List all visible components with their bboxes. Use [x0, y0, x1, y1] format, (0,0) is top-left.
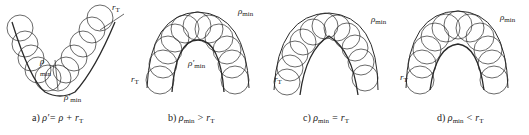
panel-b-label-rho-min: ρmin	[238, 6, 253, 18]
panel-b-label-rho-min-prime: ρ′min	[188, 58, 205, 70]
panel-d-label-rho-min: ρmin	[500, 12, 515, 24]
panel-d-label-rt: rT	[400, 72, 408, 84]
panel-c-drawing	[274, 13, 378, 95]
panel-c-label-rho-min: ρmin	[371, 14, 386, 26]
panel-c-label-rt: rT	[274, 74, 282, 86]
panel-a-label-rho-min: ρmin	[40, 56, 51, 78]
panel-a-label-rt: rT	[112, 2, 120, 14]
panel-d-caption: d) ρmin < rT	[437, 112, 483, 125]
panel-a-caption: a) ρ′= ρ + rT	[32, 112, 83, 125]
panel-b-drawing	[146, 12, 249, 94]
panel-c-caption: c) ρmin = rT	[303, 112, 349, 125]
panel-b-label-rt: rT	[131, 74, 139, 86]
panel-a-label-rho-min-prime: ρ′min	[64, 92, 81, 104]
panel-b-caption: b) ρmin > rT	[168, 112, 214, 125]
panel-d-drawing	[406, 11, 508, 94]
panel-a-drawing	[7, 5, 124, 96]
